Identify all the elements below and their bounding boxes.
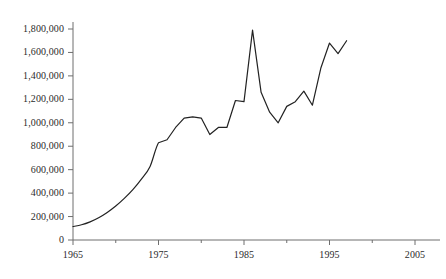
y-axis-tick-label: 1,000,000 xyxy=(0,118,64,128)
y-axis-tick-label: 600,000 xyxy=(0,165,64,175)
x-axis-tick-label: 2005 xyxy=(390,250,440,260)
y-axis-tick-label: 1,200,000 xyxy=(0,94,64,104)
y-axis-ticks xyxy=(68,29,73,240)
chart-plot-area xyxy=(0,0,446,279)
data-line-series-1 xyxy=(73,30,347,226)
y-axis-tick-label: 0 xyxy=(0,235,64,245)
y-axis-tick-label: 800,000 xyxy=(0,141,64,151)
x-axis-tick-label: 1965 xyxy=(48,250,98,260)
y-axis-tick-label: 1,800,000 xyxy=(0,24,64,34)
x-axis-tick-label: 1985 xyxy=(219,250,269,260)
y-axis-tick-label: 400,000 xyxy=(0,188,64,198)
x-axis-tick-label: 1995 xyxy=(305,250,355,260)
y-axis-tick-label: 1,600,000 xyxy=(0,47,64,57)
y-axis-tick-label: 1,400,000 xyxy=(0,71,64,81)
line-chart: 0200,000400,000600,000800,0001,000,0001,… xyxy=(0,0,446,279)
x-axis-tick-label: 1975 xyxy=(134,250,184,260)
x-axis-ticks xyxy=(73,240,415,245)
y-axis-tick-label: 200,000 xyxy=(0,212,64,222)
